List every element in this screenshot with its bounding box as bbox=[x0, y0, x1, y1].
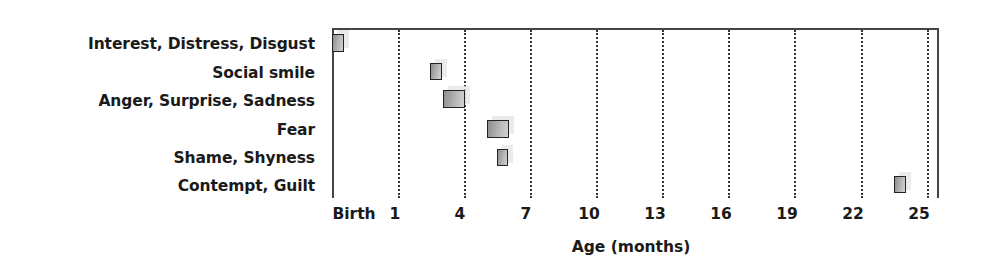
category-label: Anger, Surprise, Sadness bbox=[98, 92, 315, 110]
gridline bbox=[530, 30, 532, 198]
gridline bbox=[728, 30, 730, 198]
category-label: Social smile bbox=[212, 64, 315, 82]
bar-contempt-guilt bbox=[894, 176, 906, 193]
x-tick-label: 25 bbox=[908, 205, 930, 223]
gridline bbox=[861, 30, 863, 198]
gridline bbox=[596, 30, 598, 198]
category-label: Contempt, Guilt bbox=[178, 177, 315, 195]
x-tick-label: 1 bbox=[390, 205, 401, 223]
gridline bbox=[398, 30, 400, 198]
bar-fear bbox=[487, 120, 509, 138]
category-label: Interest, Distress, Disgust bbox=[88, 35, 315, 53]
x-tick-label: 13 bbox=[644, 205, 666, 223]
bar-social-smile bbox=[430, 63, 442, 80]
gridline bbox=[464, 30, 466, 198]
bar-anger-surprise-sadness bbox=[443, 90, 465, 108]
x-tick-label: 7 bbox=[521, 205, 532, 223]
gridline bbox=[794, 30, 796, 198]
bar-interest-distress-disgust bbox=[332, 34, 344, 52]
x-tick-label: 19 bbox=[776, 205, 798, 223]
gridline bbox=[662, 30, 664, 198]
x-tick-label: 4 bbox=[455, 205, 466, 223]
x-tick-label: 22 bbox=[842, 205, 864, 223]
gridline bbox=[927, 30, 929, 198]
bar-shame-shyness bbox=[497, 149, 508, 166]
category-label: Shame, Shyness bbox=[173, 149, 315, 167]
x-tick-label: Birth bbox=[332, 205, 375, 223]
x-tick-label: 16 bbox=[710, 205, 732, 223]
x-axis-title: Age (months) bbox=[572, 238, 691, 256]
plot-frame bbox=[332, 28, 939, 198]
category-label: Fear bbox=[277, 121, 315, 139]
x-tick-label: 10 bbox=[578, 205, 600, 223]
